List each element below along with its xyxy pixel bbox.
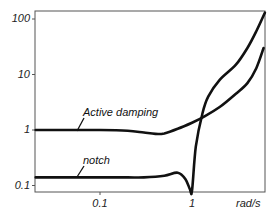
x-tick-label: 1 [177,198,207,209]
active-damping-label: Active damping [83,106,158,118]
active-damping-curve [36,48,264,134]
x-axis-unit-label: rad/s [236,198,260,209]
notch-label: notch [83,154,110,166]
notch-curve [36,13,265,194]
y-tick-label: 1 [2,124,30,135]
y-tick-label: 0.1 [2,180,30,191]
x-tick-label: 0.1 [85,198,115,209]
plot-frame [35,11,265,192]
y-tick-label: 100 [2,13,30,24]
y-tick-label: 10 [2,69,30,80]
notch-leader [77,166,84,177]
